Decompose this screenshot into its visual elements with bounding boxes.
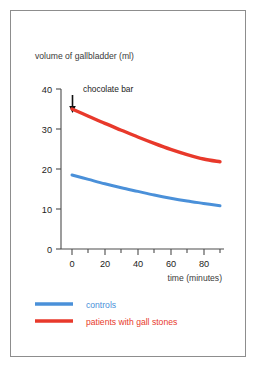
x-axis-label: time (minutes)	[168, 273, 223, 283]
x-tick-label-80: 80	[199, 259, 209, 269]
y-axis-tick-labels: 40 30 20 10 0	[42, 85, 52, 255]
x-tick-label-40: 40	[133, 259, 143, 269]
series-line-controls	[72, 175, 220, 206]
chart-area: volume of gallbladder (ml) 40 30 20 10 0	[11, 11, 247, 358]
y-tick-label-20: 20	[42, 165, 52, 175]
x-axis-ticks	[72, 249, 220, 255]
x-tick-label-60: 60	[166, 259, 176, 269]
legend: controls patients with gall stones	[35, 300, 177, 327]
chart-title: volume of gallbladder (ml)	[35, 51, 134, 61]
y-tick-label-10: 10	[42, 205, 52, 215]
y-axis-ticks	[56, 89, 61, 249]
chart-svg: volume of gallbladder (ml) 40 30 20 10 0	[11, 11, 247, 358]
y-tick-label-0: 0	[47, 245, 52, 255]
y-tick-label-30: 30	[42, 125, 52, 135]
x-tick-label-0: 0	[69, 259, 74, 269]
series-line-patients-with-gall-stones	[72, 109, 220, 162]
y-tick-label-40: 40	[42, 85, 52, 95]
x-axis-tick-labels: 0 20 40 60 80	[69, 259, 209, 269]
x-tick-label-20: 20	[100, 259, 110, 269]
legend-label-controls: controls	[86, 300, 116, 310]
annotation-label-chocolate-bar: chocolate bar	[83, 84, 133, 94]
legend-label-patients-with-gall-stones: patients with gall stones	[86, 317, 177, 327]
figure-frame: volume of gallbladder (ml) 40 30 20 10 0	[10, 10, 246, 357]
